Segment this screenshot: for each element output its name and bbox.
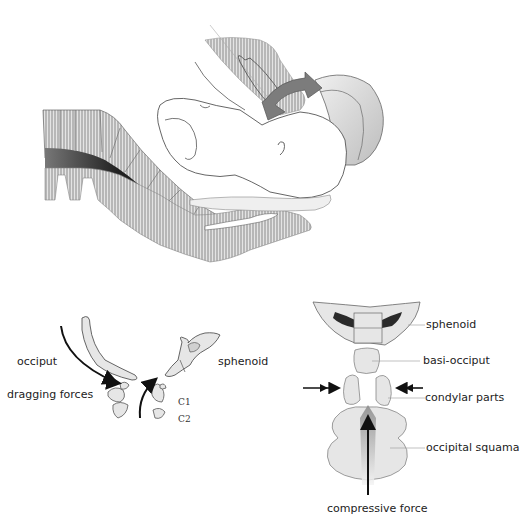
cranial-base-inferior-view <box>303 302 425 495</box>
c1-left <box>108 388 124 402</box>
cranial-base-lateral-view <box>61 317 220 419</box>
fetal-body <box>158 98 347 198</box>
condylar-part-left <box>344 375 361 404</box>
sphenoid-bone <box>165 333 220 377</box>
label-occiput: occiput <box>17 355 57 368</box>
label-compressive-force: compressive force <box>327 502 428 515</box>
c2-left <box>113 403 128 419</box>
c2-right <box>153 408 165 418</box>
birth-sagittal-illustration <box>43 25 383 262</box>
condylar-part-right <box>376 375 391 405</box>
label-sphenoid-left: sphenoid <box>218 355 268 368</box>
label-dragging-forces: dragging forces <box>7 388 93 401</box>
label-sphenoid-right: sphenoid <box>426 318 476 331</box>
occiput-bone <box>82 317 137 380</box>
label-basi-occiput: basi-occiput <box>423 354 490 367</box>
label-c1: C1 <box>178 397 191 407</box>
label-c2: C2 <box>178 414 191 424</box>
dragging-force-arrow-right <box>140 380 155 418</box>
label-condylar-parts: condylar parts <box>425 391 504 404</box>
label-occipital-squama: occipital squama <box>426 441 519 454</box>
maternal-tissue-upper <box>205 38 305 116</box>
